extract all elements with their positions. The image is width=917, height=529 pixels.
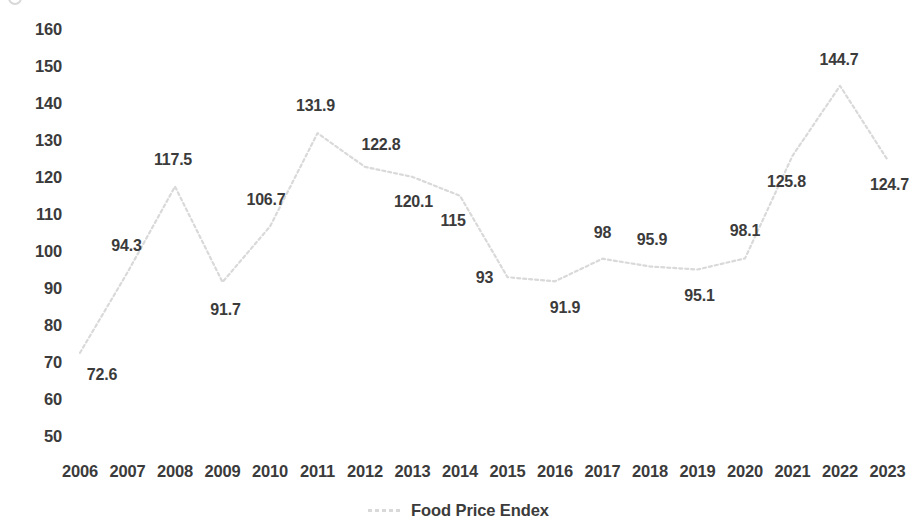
data-label-2013: 120.1 [394,194,433,210]
data-label-2012: 122.8 [361,137,400,153]
data-label-2014: 115 [440,213,465,229]
data-label-2006: 72.6 [87,367,117,383]
plot-area: 1601501401301201101009080706050 72.694.3… [0,0,917,460]
data-label-2007: 94.3 [111,238,141,254]
data-label-2020: 98.1 [730,223,760,239]
food-price-index-chart: 1601501401301201101009080706050 72.694.3… [0,0,917,529]
data-label-2022: 144.7 [819,52,858,68]
data-label-2021: 125.8 [767,174,806,190]
data-label-2015: 93 [476,270,493,286]
legend-line-swatch-icon [368,509,402,512]
x-axis: 2006200720082009201020112012201320142015… [0,460,917,490]
data-label-2019: 95.1 [684,288,714,304]
chart-legend: Food Price Endex [0,492,917,529]
data-label-2011: 131.9 [296,98,335,114]
data-label-2008: 117.5 [154,152,192,168]
series-line-food-price-endex [0,0,917,460]
data-label-2017: 98 [594,225,611,241]
data-label-2023: 124.7 [870,177,909,193]
data-label-2010: 106.7 [246,192,285,208]
data-label-2009: 91.7 [210,302,240,318]
x-axis-tick-2023: 2023 [858,462,917,482]
legend-label-food-price-endex: Food Price Endex [411,501,549,520]
data-label-2018: 95.9 [637,232,667,248]
data-label-2016: 91.9 [550,300,580,316]
